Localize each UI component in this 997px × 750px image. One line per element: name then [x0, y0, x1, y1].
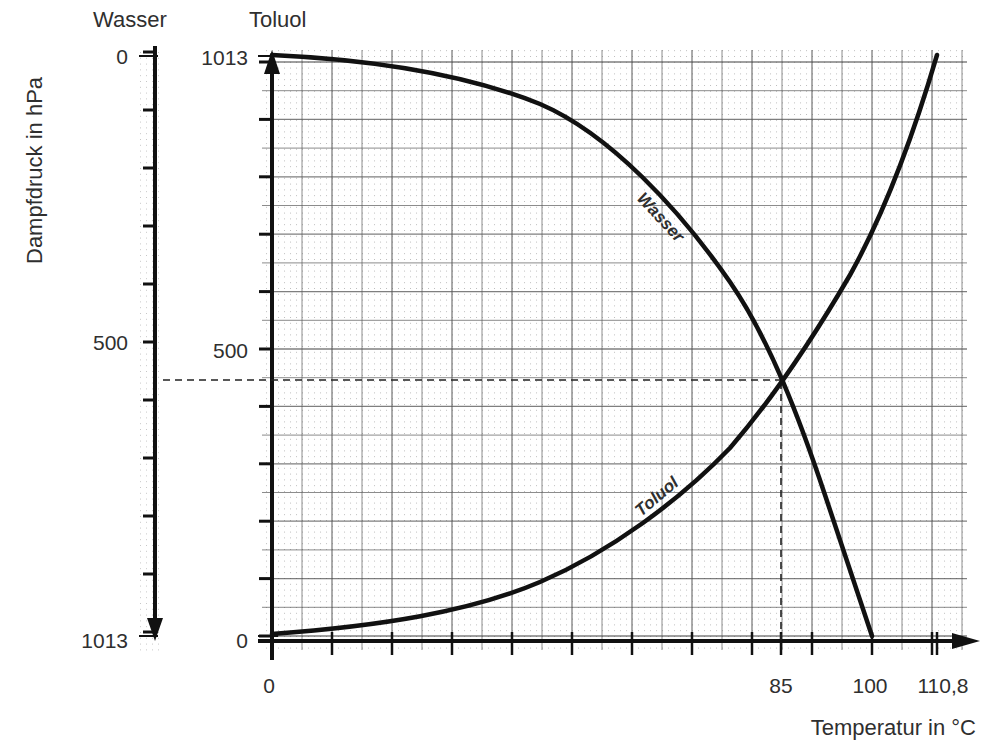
- y-axis-label: Dampfdruck in hPa: [22, 76, 47, 264]
- x-tick-100: 100: [852, 674, 887, 697]
- wasser-tick-1013: 1013: [81, 629, 128, 652]
- toluol-tick-0: 0: [236, 629, 248, 652]
- toluol-tick-1013: 1013: [201, 46, 248, 69]
- wasser-axis-grid: [140, 48, 162, 653]
- plot-grid: [262, 48, 967, 650]
- x-tick-0: 0: [263, 674, 275, 697]
- toluol-axis-header: Toluol: [249, 7, 306, 32]
- x-tick-110-8: 110,8: [918, 674, 969, 697]
- toluol-tick-500: 500: [213, 339, 248, 362]
- vapor-pressure-chart: Wasser Toluol Wasser Toluol Dampfdruck i…: [0, 0, 997, 750]
- wasser-axis-header: Wasser: [93, 7, 167, 32]
- x-tick-85: 85: [769, 674, 792, 697]
- wasser-tick-0: 0: [116, 45, 128, 68]
- wasser-tick-500: 500: [93, 331, 128, 354]
- x-axis-label: Temperatur in °C: [811, 715, 976, 740]
